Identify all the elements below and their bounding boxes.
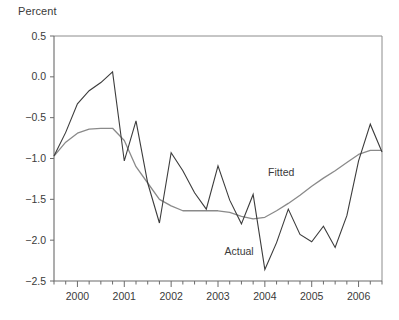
x-tick-label: 2004: [253, 290, 277, 302]
annotation-fitted: Fitted: [268, 166, 294, 178]
series-line-fitted: [54, 128, 382, 219]
x-axis-ticks: 2000200120022003200420052006: [54, 281, 382, 302]
y-tick-label: −0.5: [25, 111, 46, 123]
x-tick-label: 2001: [113, 290, 137, 302]
annotation-actual: Actual: [224, 245, 253, 257]
chart-container: Percent 0.50.0−0.5−1.0−1.5−2.0−2.5 20002…: [0, 0, 399, 320]
y-tick-label: −1.5: [25, 193, 46, 205]
y-tick-label: −2.0: [25, 234, 46, 246]
y-tick-label: −2.5: [25, 275, 46, 287]
series-line-actual: [54, 72, 382, 270]
x-tick-label: 2006: [347, 290, 371, 302]
y-tick-label: 0.0: [31, 70, 46, 82]
line-chart-plot: 0.50.0−0.5−1.0−1.5−2.0−2.5 2000200120022…: [0, 0, 399, 320]
y-axis-ticks: 0.50.0−0.5−1.0−1.5−2.0−2.5: [25, 30, 54, 287]
x-tick-label: 2000: [66, 290, 90, 302]
x-tick-label: 2002: [159, 290, 183, 302]
data-series-group: [54, 72, 382, 270]
x-tick-label: 2003: [206, 290, 230, 302]
y-tick-label: −1.0: [25, 152, 46, 164]
y-tick-label: 0.5: [31, 30, 46, 42]
x-tick-label: 2005: [300, 290, 324, 302]
